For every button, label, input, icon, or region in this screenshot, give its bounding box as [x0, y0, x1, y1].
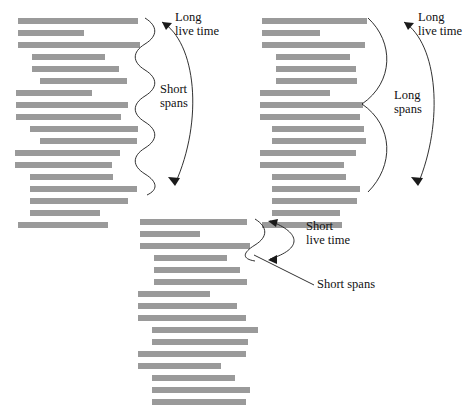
span-bar	[140, 243, 250, 249]
panel2-long-spans-label: Long spans	[394, 88, 422, 116]
span-bar	[32, 54, 105, 60]
panel2-long-live-time-label: Long live time	[418, 10, 462, 38]
span-bar	[152, 339, 248, 345]
panel3-short-live-time-label: Short live time	[306, 219, 350, 247]
span-bar	[272, 174, 346, 180]
span-bar	[138, 351, 246, 357]
span-bar	[276, 78, 357, 84]
span-bar	[276, 66, 356, 72]
span-bar	[30, 174, 113, 180]
span-bar	[276, 54, 350, 60]
span-bar	[40, 138, 137, 144]
span-bar	[30, 126, 138, 132]
span-bar	[152, 399, 246, 405]
span-bar	[154, 267, 240, 273]
panel1-short-spans-label: Short spans	[160, 82, 188, 110]
panel3-live-time-line1: Short	[306, 219, 350, 233]
span-bar	[272, 138, 366, 144]
panel1-live-time-line2: live time	[175, 24, 219, 38]
span-bar	[30, 210, 100, 216]
span-bar	[16, 90, 92, 96]
span-bar	[138, 315, 246, 321]
span-bar	[18, 222, 108, 228]
span-bar	[260, 90, 330, 96]
panel-short-live-short-spans: Short live time Short spans	[118, 205, 368, 410]
span-bar	[16, 114, 121, 120]
panel1-spans-line2: spans	[160, 96, 188, 110]
panel2-spans-line2: spans	[394, 102, 422, 116]
span-bar	[152, 375, 235, 381]
span-bar	[154, 279, 247, 285]
span-bar	[262, 30, 320, 36]
panel2-spans-line1: Long	[394, 88, 422, 102]
panel3-live-time-line2: live time	[306, 233, 350, 247]
panel3-spans-line1: Short spans	[317, 277, 375, 291]
panel2-live-time-line1: Long	[418, 10, 462, 24]
span-bar	[262, 42, 365, 48]
span-bar	[15, 162, 112, 168]
span-bar	[272, 186, 360, 192]
panel2-live-time-line2: live time	[418, 24, 462, 38]
panel1-spans-line1: Short	[160, 82, 188, 96]
panel3-short-spans-label: Short spans	[317, 277, 375, 291]
span-bar	[154, 255, 227, 261]
panel1-long-live-time-label: Long live time	[175, 10, 219, 38]
span-bar	[140, 219, 247, 225]
span-bar	[16, 102, 128, 108]
span-bar	[260, 102, 363, 108]
span-bar	[272, 198, 357, 204]
panel1-live-time-line1: Long	[175, 10, 219, 24]
panel-long-live-short-spans: Long live time Short spans	[0, 0, 240, 205]
span-bar	[18, 30, 84, 36]
span-bar	[40, 78, 127, 84]
span-bar	[18, 18, 138, 24]
span-bar	[260, 114, 360, 120]
span-bar	[30, 198, 128, 204]
span-bar	[138, 291, 210, 297]
span-bar	[18, 42, 140, 48]
span-lifetime-diagram: Long live time Short spans Long live tim…	[0, 0, 471, 410]
span-bar	[152, 387, 250, 393]
span-bar	[32, 66, 119, 72]
span-bar	[152, 327, 258, 333]
span-bar	[262, 18, 367, 24]
span-bar	[30, 186, 137, 192]
span-bar	[260, 150, 356, 156]
span-bar	[140, 231, 200, 237]
span-bar	[260, 162, 344, 168]
span-bar	[272, 126, 364, 132]
panel-long-live-long-spans: Long live time Long spans	[248, 0, 471, 205]
span-bar	[138, 303, 237, 309]
span-bar	[15, 150, 120, 156]
span-bar	[138, 363, 221, 369]
